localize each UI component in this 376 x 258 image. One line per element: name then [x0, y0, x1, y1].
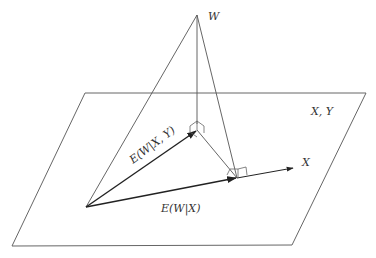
right-angle-marker-x — [227, 167, 247, 177]
label-e-w-given-x: E(W|X) — [160, 202, 200, 216]
line-w-to-origin — [86, 15, 197, 207]
right-angle-marker-xy — [190, 121, 204, 137]
projection-diagram: W X, Y X E(W|X, Y) E(W|X) — [0, 0, 376, 258]
label-plane-xy: X, Y — [310, 105, 335, 118]
vector-e-w-given-xy — [86, 131, 196, 207]
label-w: W — [208, 10, 221, 23]
x-axis-arrow — [237, 168, 293, 178]
label-x-axis: X — [301, 156, 311, 169]
